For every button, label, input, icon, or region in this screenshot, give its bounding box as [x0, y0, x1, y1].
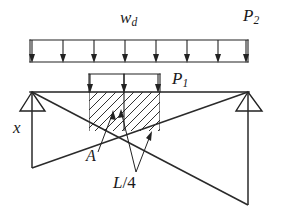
label-quarter-span: L/4 — [113, 174, 136, 191]
wd-arrow — [60, 40, 66, 63]
label-l4-numerator: L — [113, 173, 122, 192]
partial-load-group — [87, 74, 161, 93]
p1-arrow — [121, 74, 127, 93]
distributed-load-group — [29, 40, 249, 63]
wd-arrow — [122, 40, 128, 63]
influence-lines-group — [32, 92, 248, 205]
label-p2-symbol: P — [243, 6, 253, 25]
wd-arrow — [91, 40, 97, 63]
label-p1-subscript: 1 — [182, 77, 188, 90]
label-l4-denominator: 4 — [127, 173, 136, 192]
wd-arrow — [215, 40, 221, 63]
influence-diagonal-descending — [32, 92, 248, 205]
label-distributed-load: wd — [120, 9, 137, 29]
leader-l4-up — [118, 109, 136, 172]
beam-diagram-figure: wd P2 P1 x A L/4 — [0, 0, 286, 214]
label-wd-subscript: d — [131, 16, 137, 29]
label-distance-x: x — [13, 119, 21, 136]
hatched-area-a — [89, 92, 206, 140]
label-area-a: A — [86, 148, 96, 164]
p1-arrow — [87, 74, 93, 93]
diagram-canvas — [0, 0, 286, 214]
label-p2-subscript: 2 — [253, 14, 259, 27]
wd-arrow — [153, 40, 159, 63]
wd-arrow — [184, 40, 190, 63]
leader-l4-right — [136, 131, 152, 172]
label-point-load-p2: P2 — [243, 7, 259, 27]
label-wd-symbol: w — [120, 8, 131, 27]
label-point-load-p1: P1 — [172, 70, 188, 90]
label-p1-symbol: P — [172, 69, 182, 88]
